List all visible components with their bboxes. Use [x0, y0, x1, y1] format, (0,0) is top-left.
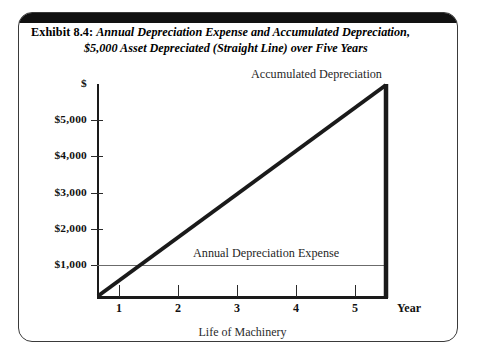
- accumulated-depreciation-annotation: Accumulated Depreciation: [251, 67, 382, 82]
- accumulated-depreciation-line: [98, 85, 386, 296]
- exhibit-figure-frame: Exhibit 8.4: Annual Depreciation Expense…: [18, 12, 458, 342]
- annual-depreciation-expense-annotation: Annual Depreciation Expense: [193, 246, 339, 261]
- chart-plot-area: $ $5,000 $4,000 $3,000 $2,000 $1,000 1 2…: [19, 13, 458, 342]
- accumulated-depreciation-series: [19, 13, 458, 342]
